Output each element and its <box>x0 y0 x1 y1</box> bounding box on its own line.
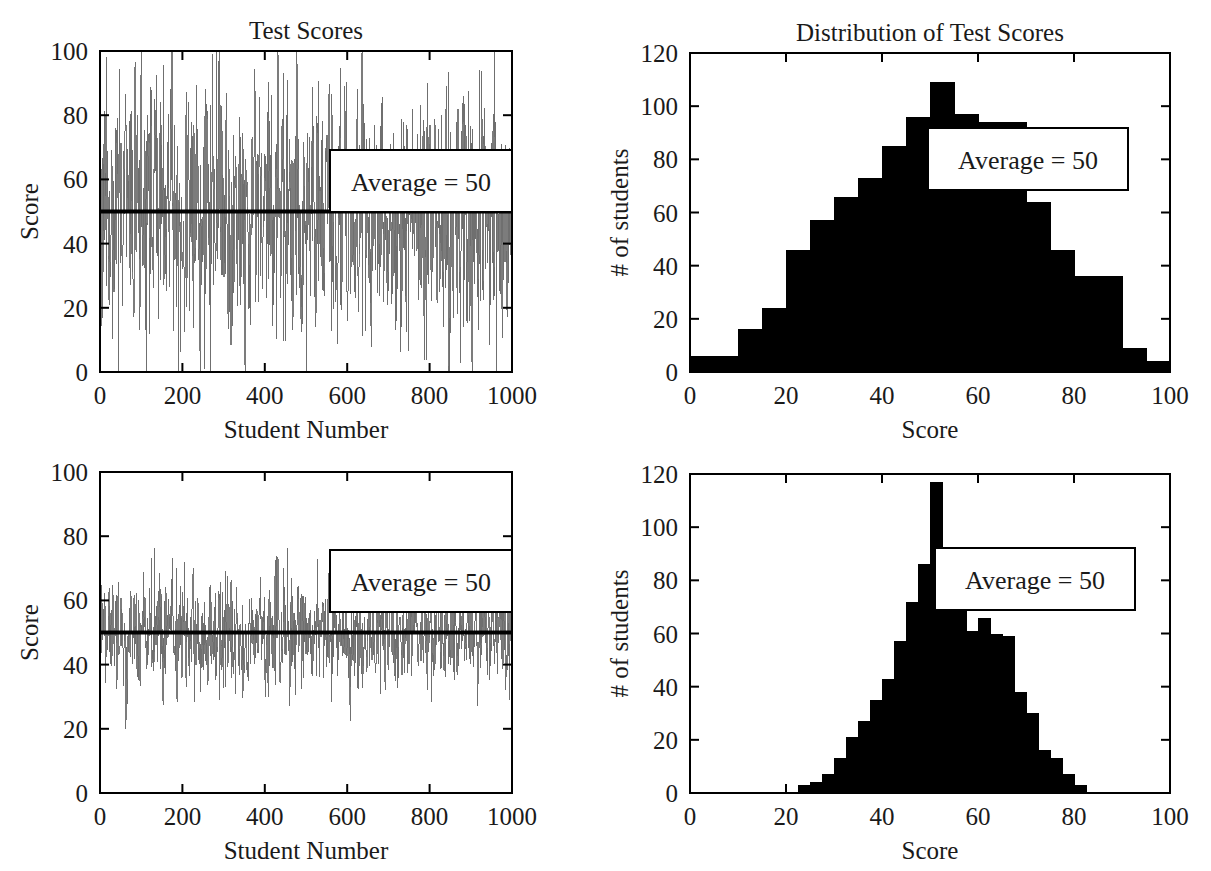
y-tick-label: 40 <box>63 231 88 258</box>
histogram-bar <box>906 602 919 793</box>
histogram-bar <box>1050 250 1075 372</box>
annotation-label: Average = 50 <box>958 146 1098 175</box>
y-tick-label: 0 <box>76 359 89 386</box>
annotation-label: Average = 50 <box>351 568 491 597</box>
x-tick-label: 1000 <box>487 803 537 830</box>
annotation-average: Average = 50 <box>935 548 1135 610</box>
annotation-average: Average = 50 <box>330 150 512 212</box>
y-axis-label: # of students <box>606 149 633 277</box>
histogram-bar <box>1098 276 1123 372</box>
x-tick-label: 0 <box>94 382 107 409</box>
y-tick-label: 100 <box>51 38 89 65</box>
x-tick-label: 40 <box>870 803 895 830</box>
x-tick-label: 200 <box>164 803 202 830</box>
figure-four-panel-test-scores: 02004006008001000020406080100Test Scores… <box>0 0 1211 871</box>
x-tick-label: 80 <box>1062 803 1087 830</box>
x-tick-label: 60 <box>966 803 991 830</box>
histogram-bar <box>1002 636 1015 793</box>
y-tick-label: 60 <box>653 200 678 227</box>
y-tick-label: 100 <box>51 459 89 486</box>
panel-test-scores-series-narrow: 02004006008001000020406080100Student Num… <box>16 459 537 864</box>
plot-title: Test Scores <box>249 17 363 44</box>
histogram-bars <box>798 482 1087 793</box>
histogram-bar <box>810 220 835 372</box>
y-axis-label: Score <box>16 604 43 661</box>
panel-distribution-uniform-wide: 020406080100020406080100120Distribution … <box>606 19 1189 443</box>
x-tick-label: 40 <box>870 382 895 409</box>
histogram-bar <box>858 178 883 372</box>
histogram-bar <box>1026 713 1039 793</box>
x-tick-label: 0 <box>684 803 697 830</box>
histogram-bar <box>738 329 763 372</box>
annotation-average: Average = 50 <box>330 550 512 612</box>
x-tick-label: 400 <box>246 803 284 830</box>
x-tick-label: 0 <box>684 382 697 409</box>
x-tick-label: 20 <box>774 382 799 409</box>
histogram-bar <box>894 641 907 793</box>
y-tick-label: 40 <box>653 253 678 280</box>
y-tick-label: 60 <box>63 166 88 193</box>
y-tick-label: 20 <box>63 716 88 743</box>
histogram-bar <box>930 82 955 372</box>
y-tick-label: 0 <box>666 359 679 386</box>
panel-distribution-narrow: 020406080100020406080100120Score# of stu… <box>606 461 1189 864</box>
y-tick-label: 0 <box>666 780 679 807</box>
panel-test-scores-series-uniform: 02004006008001000020406080100Test Scores… <box>16 17 537 443</box>
plot-title: Distribution of Test Scores <box>796 19 1064 46</box>
histogram-bar <box>810 782 823 793</box>
x-tick-label: 20 <box>774 803 799 830</box>
x-axis-label: Student Number <box>224 416 389 443</box>
x-tick-label: 1000 <box>487 382 537 409</box>
annotation-average: Average = 50 <box>928 128 1128 190</box>
x-tick-label: 600 <box>328 382 366 409</box>
x-tick-label: 600 <box>328 803 366 830</box>
x-tick-label: 100 <box>1151 382 1189 409</box>
histogram-bar <box>882 679 895 793</box>
histogram-bar <box>834 758 847 793</box>
histogram-bar <box>822 774 835 793</box>
y-tick-label: 40 <box>63 652 88 679</box>
y-tick-label: 20 <box>653 306 678 333</box>
y-tick-label: 60 <box>653 621 678 648</box>
histogram-bar <box>714 356 739 372</box>
x-tick-label: 800 <box>411 803 449 830</box>
y-tick-label: 80 <box>63 523 88 550</box>
histogram-bar <box>966 631 979 793</box>
histogram-bar <box>930 482 943 793</box>
annotation-label: Average = 50 <box>965 566 1105 595</box>
y-tick-label: 80 <box>653 567 678 594</box>
x-tick-label: 200 <box>164 382 202 409</box>
histogram-bar <box>978 618 991 793</box>
histogram-bar <box>834 197 859 372</box>
x-tick-label: 80 <box>1062 382 1087 409</box>
x-axis-label: Score <box>902 416 959 443</box>
y-tick-label: 60 <box>63 587 88 614</box>
histogram-bar <box>1026 202 1051 372</box>
y-tick-label: 20 <box>653 727 678 754</box>
x-axis-label: Score <box>902 837 959 864</box>
x-axis-label: Student Number <box>224 837 389 864</box>
histogram-bar <box>798 785 811 793</box>
x-tick-label: 100 <box>1151 803 1189 830</box>
y-tick-label: 20 <box>63 295 88 322</box>
annotation-label: Average = 50 <box>351 168 491 197</box>
y-tick-label: 80 <box>63 102 88 129</box>
y-axis-label: # of students <box>606 570 633 698</box>
y-tick-label: 80 <box>653 146 678 173</box>
histogram-bar <box>1014 692 1027 793</box>
figure-canvas: 02004006008001000020406080100Test Scores… <box>0 0 1211 871</box>
histogram-bar <box>762 308 787 372</box>
histogram-bar <box>1122 348 1147 372</box>
x-tick-label: 60 <box>966 382 991 409</box>
y-tick-label: 0 <box>76 780 89 807</box>
histogram-bar <box>1074 276 1099 372</box>
histogram-bar <box>1062 774 1075 793</box>
histogram-bar <box>906 117 931 372</box>
y-tick-label: 40 <box>653 674 678 701</box>
histogram-bar <box>858 721 871 793</box>
histogram-bar <box>846 737 859 793</box>
y-tick-label: 100 <box>641 514 679 541</box>
y-tick-label: 120 <box>641 40 679 67</box>
y-tick-label: 120 <box>641 461 679 488</box>
y-tick-label: 100 <box>641 93 679 120</box>
